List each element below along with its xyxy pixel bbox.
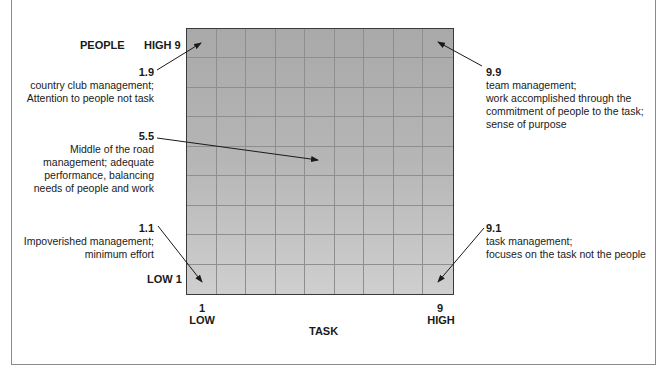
grid-cell [217, 206, 247, 235]
grid-cell [217, 176, 247, 205]
grid-cell [423, 29, 453, 58]
annotation-1-9: 1.9 country club management; Attention t… [20, 66, 154, 105]
grid-cell [305, 206, 335, 235]
annotation-9-9: 9.9 team management; work accomplished t… [486, 66, 656, 131]
grid-cell [276, 117, 306, 146]
annotation-1-1: 1.1 Impoverished management; minimum eff… [20, 222, 154, 261]
y-axis-title: PEOPLE [80, 39, 125, 52]
grid-cell [217, 265, 247, 294]
grid-cell [423, 58, 453, 87]
x-axis-title: TASK [309, 325, 338, 338]
grid-cell [276, 147, 306, 176]
grid-cell [394, 58, 424, 87]
grid-cell [335, 206, 365, 235]
grid-cell [423, 117, 453, 146]
annotation-1-1-line: Impoverished management; [20, 235, 154, 248]
grid-cell [276, 265, 306, 294]
grid-cell [394, 117, 424, 146]
annotation-5-5-line: performance, balancing [20, 169, 154, 182]
annotation-1-9-line: country club management; [20, 79, 154, 92]
grid-cell [246, 265, 276, 294]
grid-cell [187, 88, 217, 117]
grid-cell [187, 265, 217, 294]
grid-cell [187, 206, 217, 235]
grid-cell [364, 265, 394, 294]
grid-cell [364, 206, 394, 235]
grid-cell [305, 147, 335, 176]
grid-cell [364, 88, 394, 117]
grid-cell [423, 235, 453, 264]
grid-cell [394, 265, 424, 294]
grid-cell [187, 176, 217, 205]
grid-cell [246, 117, 276, 146]
grid-cell [394, 147, 424, 176]
grid-cell [217, 147, 247, 176]
annotation-5-5-line: management; adequate [20, 156, 154, 169]
annotation-9-9-line: commitment of people to the task; [486, 105, 656, 118]
grid-cell [305, 58, 335, 87]
grid-cell [187, 117, 217, 146]
annotation-1-1-code: 1.1 [20, 222, 154, 235]
grid-cell [364, 176, 394, 205]
grid-cell [423, 88, 453, 117]
grid-cell [423, 147, 453, 176]
grid-cell [276, 58, 306, 87]
grid-cell [394, 206, 424, 235]
grid-cell [246, 235, 276, 264]
grid-cell [276, 88, 306, 117]
grid-cell [364, 29, 394, 58]
grid-cell [335, 265, 365, 294]
grid-cell [423, 176, 453, 205]
grid-cell [423, 265, 453, 294]
grid-cell [335, 117, 365, 146]
grid-cell [187, 58, 217, 87]
grid-cell [364, 58, 394, 87]
annotation-9-1-line: focuses on the task not the people [486, 248, 661, 261]
grid-cell [217, 58, 247, 87]
annotation-9-9-line: work accomplished through the [486, 92, 656, 105]
grid-cell [335, 176, 365, 205]
x-axis-low-label: LOW [186, 314, 218, 327]
annotation-9-9-code: 9.9 [486, 66, 656, 79]
grid-cell [217, 29, 247, 58]
grid-cell [276, 206, 306, 235]
grid-cell [305, 29, 335, 58]
annotation-5-5-code: 5.5 [20, 130, 154, 143]
annotation-9-1-line: task management; [486, 235, 661, 248]
grid-cell [276, 29, 306, 58]
grid-cell [246, 176, 276, 205]
grid-cell [305, 265, 335, 294]
grid-cell [364, 147, 394, 176]
grid-cell [217, 117, 247, 146]
grid-cell [246, 206, 276, 235]
annotation-5-5: 5.5 Middle of the road management; adequ… [20, 130, 154, 195]
grid-cell [394, 29, 424, 58]
grid-cell [246, 58, 276, 87]
grid-cell [187, 235, 217, 264]
grid-cell [423, 206, 453, 235]
grid-cell [246, 29, 276, 58]
grid-cell [187, 29, 217, 58]
grid-cell [276, 176, 306, 205]
annotation-1-1-line: minimum effort [20, 248, 154, 261]
grid-cell [187, 147, 217, 176]
managerial-grid [186, 28, 454, 295]
grid-cell [394, 176, 424, 205]
grid-cell [335, 147, 365, 176]
annotation-9-1: 9.1 task management; focuses on the task… [486, 222, 661, 261]
grid-cell [335, 58, 365, 87]
grid-cell [305, 88, 335, 117]
y-axis-high-label: HIGH 9 [144, 39, 181, 52]
annotation-5-5-line: Middle of the road [20, 143, 154, 156]
grid-cell [246, 147, 276, 176]
grid-cell [217, 88, 247, 117]
annotation-5-5-line: needs of people and work [20, 182, 154, 195]
annotation-9-9-line: team management; [486, 79, 656, 92]
annotation-1-9-line: Attention to people not task [20, 92, 154, 105]
grid-cell [276, 235, 306, 264]
grid-cell [335, 235, 365, 264]
grid-cell [394, 88, 424, 117]
x-axis-high-label: HIGH [424, 314, 458, 327]
annotation-9-1-code: 9.1 [486, 222, 661, 235]
grid-cell [305, 117, 335, 146]
